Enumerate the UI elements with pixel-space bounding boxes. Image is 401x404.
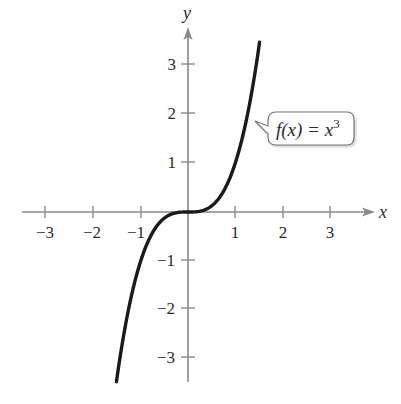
y-tick-label: 1 (168, 153, 177, 172)
y-tick-label: 2 (168, 104, 177, 123)
cubic-function-chart: x y −3 −2 −1 1 2 3 −3 −2 −1 1 2 3 (0, 0, 401, 404)
y-tick-label: −1 (157, 251, 175, 270)
x-tick-label: 2 (279, 223, 288, 242)
x-tick-labels: −3 −2 −1 1 2 3 (36, 223, 334, 242)
x-axis-label: x (378, 202, 387, 222)
x-axis: x (22, 202, 387, 222)
y-axis: y (181, 3, 193, 382)
x-tick-label: 1 (231, 223, 240, 242)
y-tick-labels: −3 −2 −1 1 2 3 (157, 55, 176, 367)
x-tick-label: −1 (127, 223, 145, 242)
y-tick-label: 3 (168, 55, 177, 74)
y-tick-label: −3 (157, 348, 175, 367)
y-axis-label: y (181, 3, 191, 23)
y-tick-label: −2 (157, 299, 175, 318)
x-tick-label: 3 (326, 223, 335, 242)
function-label: f(x) = x3 (276, 116, 340, 141)
x-tick-label: −3 (36, 223, 54, 242)
x-tick-label: −2 (83, 223, 101, 242)
